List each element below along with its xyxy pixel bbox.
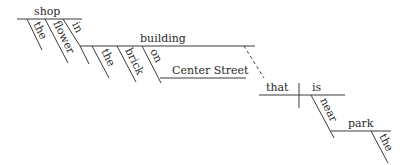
word-near: near — [317, 96, 340, 125]
word-is: is — [312, 81, 322, 94]
sentence-diagram: shop the flower in building the brick on… — [0, 0, 411, 165]
word-that: that — [266, 81, 289, 94]
word-the-2: the — [98, 47, 118, 69]
preposition-line-in-lower — [80, 46, 89, 64]
word-shop: shop — [34, 5, 60, 18]
word-park: park — [348, 117, 374, 130]
word-brick: brick — [122, 46, 146, 78]
word-building: building — [140, 32, 186, 45]
word-the-3: the — [376, 132, 396, 154]
word-center-street: Center Street — [172, 64, 249, 77]
